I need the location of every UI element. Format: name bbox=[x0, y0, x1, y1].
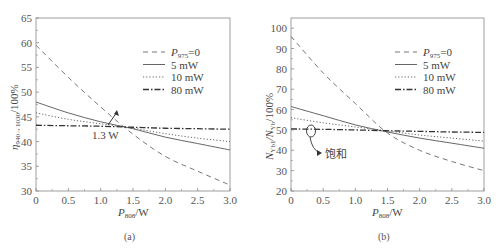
saturation-arrow bbox=[310, 137, 320, 153]
x-tick-label: 2.5 bbox=[445, 194, 459, 206]
x-tick-label: 3.0 bbox=[477, 194, 491, 206]
x-axis-label-a: P808/W bbox=[117, 206, 149, 220]
x-tick-label: 0.5 bbox=[61, 194, 75, 206]
plot-frame-b bbox=[291, 18, 484, 191]
y-tick-label: 35 bbox=[21, 160, 33, 172]
x-tick-label: 0.5 bbox=[316, 194, 330, 206]
legend-label: 80 mW bbox=[171, 84, 204, 96]
x-tick-label: 1.5 bbox=[126, 194, 140, 206]
y-tick-label: 45 bbox=[21, 111, 33, 123]
curves-a bbox=[36, 45, 230, 185]
y-tick-label: 60 bbox=[276, 104, 288, 116]
panel-label-a: (a) bbox=[124, 231, 135, 243]
x-tick-label: 1.0 bbox=[94, 194, 108, 206]
saturation-ellipse bbox=[307, 125, 316, 137]
annotation-1-3w: 1.3 W bbox=[92, 129, 119, 141]
y-tick-label: 80 bbox=[276, 63, 288, 75]
x-tick-label: 3.0 bbox=[223, 194, 237, 206]
y-axis-label-b: NYb1/NYb/100% bbox=[263, 93, 277, 161]
y-tick-label: 40 bbox=[276, 144, 288, 156]
y-tick-label: 40 bbox=[21, 136, 33, 148]
x-tick-label: 1.0 bbox=[348, 194, 362, 206]
y-tick-label: 50 bbox=[276, 124, 288, 136]
series-line bbox=[291, 36, 484, 170]
y-tick-label: 70 bbox=[276, 83, 288, 95]
y-tick-label: 30 bbox=[21, 185, 33, 197]
x-tick-label: 2.0 bbox=[158, 194, 172, 206]
y-tick-label: 100 bbox=[271, 22, 288, 34]
legend-label: 5 mW bbox=[423, 59, 451, 71]
y-tick-label: 90 bbox=[276, 43, 288, 55]
legend-b: P975=05 mW10 mW80 mW bbox=[395, 46, 456, 96]
figure: 3035404550556065 00.51.01.52.02.53.0 η94… bbox=[0, 0, 499, 248]
chart-panel-b: 2030405060708090100 00.51.01.52.02.53.0 … bbox=[263, 18, 491, 243]
legend-a: P975=05 mW10 mW80 mW bbox=[143, 46, 204, 96]
plot-frame-a bbox=[36, 18, 230, 191]
series-line bbox=[36, 45, 230, 185]
legend-label: 80 mW bbox=[423, 84, 456, 96]
y-tick-label: 50 bbox=[21, 86, 33, 98]
x-tick-label: 1.5 bbox=[381, 194, 395, 206]
x-axis-label-b: P808/W bbox=[371, 206, 403, 220]
y-tick-label: 30 bbox=[276, 165, 288, 177]
y-tick-label: 60 bbox=[21, 37, 33, 49]
chart-panel-a: 3035404550556065 00.51.01.52.02.53.0 η94… bbox=[8, 12, 237, 243]
annotation-saturation: 饱和 bbox=[325, 147, 347, 160]
curves-b bbox=[291, 36, 484, 170]
x-tick-label: 0 bbox=[33, 194, 39, 206]
legend-label: 10 mW bbox=[423, 71, 456, 83]
x-tick-label: 0 bbox=[288, 194, 294, 206]
y-axis-label-a: η940→1030/100% bbox=[8, 84, 22, 150]
x-tick-label: 2.5 bbox=[191, 194, 205, 206]
y-tick-label: 55 bbox=[21, 61, 33, 73]
legend-label: 5 mW bbox=[171, 59, 199, 71]
x-tick-label: 2.0 bbox=[413, 194, 427, 206]
y-tick-label: 65 bbox=[21, 12, 33, 24]
series-line bbox=[291, 107, 484, 149]
panel-label-b: (b) bbox=[378, 231, 390, 243]
y-tick-label: 20 bbox=[276, 185, 288, 197]
arrowhead-icon bbox=[317, 150, 322, 156]
legend-label: 10 mW bbox=[171, 71, 204, 83]
